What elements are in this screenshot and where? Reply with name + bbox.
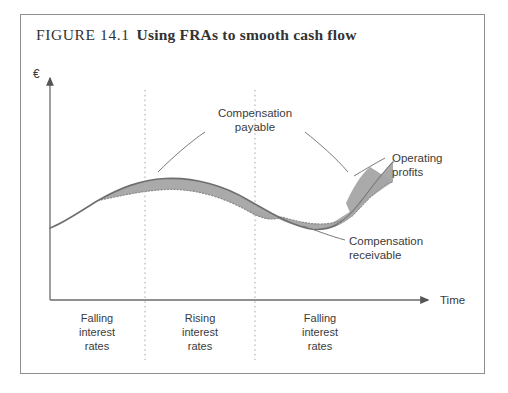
segment-1-line3: rates [85, 340, 110, 352]
annotation-compensation-payable-line2: payable [235, 121, 275, 133]
segment-label-3: Falling interest rates [302, 312, 338, 352]
leader-line-compensation-payable-right [305, 132, 348, 172]
segment-2-line2: interest [182, 326, 218, 338]
annotation-operating-profits-line2: profits [392, 166, 424, 178]
annotation-compensation-payable-line1: Compensation [218, 107, 292, 119]
figure-page: FIGURE 14.1Using FRAs to smooth cash flo… [0, 0, 508, 393]
segment-3-line1: Falling [304, 312, 336, 324]
segment-1-line1: Falling [81, 312, 113, 324]
segment-2-line1: Rising [185, 312, 216, 324]
segment-3-line2: interest [302, 326, 338, 338]
segment-1-line2: interest [79, 326, 115, 338]
annotation-compensation-receivable-line1: Compensation [349, 235, 423, 247]
y-axis-label: € [33, 67, 40, 81]
annotation-compensation-receivable-line2: receivable [349, 249, 401, 261]
segment-label-1: Falling interest rates [79, 312, 115, 352]
segment-2-line3: rates [188, 340, 213, 352]
segment-3-line3: rates [308, 340, 333, 352]
leader-line-compensation-payable-left [158, 132, 205, 172]
annotation-operating-profits-line1: Operating [392, 152, 443, 164]
segment-label-2: Rising interest rates [182, 312, 218, 352]
x-axis-label: Time [440, 294, 465, 306]
cash-flow-chart: € Time Compensation payable Compensation… [0, 0, 508, 393]
